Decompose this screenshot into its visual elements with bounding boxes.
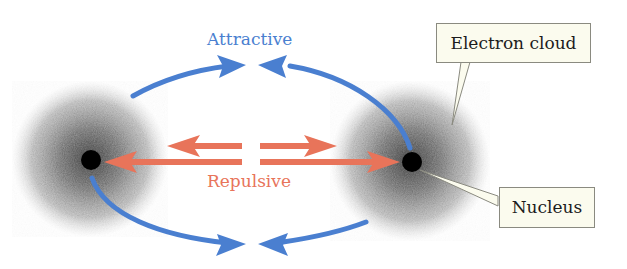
attractive-arrow-bottom-right — [283, 222, 366, 242]
attractive-label: Attractive — [207, 31, 292, 48]
nucleus-callout: Nucleus — [499, 187, 595, 228]
left-nucleus — [81, 150, 101, 170]
arrowhead-icon — [216, 234, 246, 256]
attractive-arrow-top-left — [133, 66, 228, 96]
arrowhead-icon — [258, 55, 287, 78]
attractive-arrowheads — [216, 55, 288, 256]
electron-cloud-callout: Electron cloud — [436, 23, 591, 63]
right-nucleus — [402, 152, 422, 172]
repulsive-label: Repulsive — [207, 173, 291, 190]
arrowhead-icon — [258, 233, 288, 256]
